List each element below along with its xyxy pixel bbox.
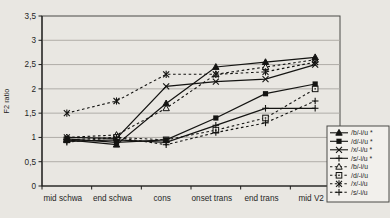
- f2-ratio-figure: 00,511,522,533,5mid schwaend schwaconson…: [0, 0, 390, 218]
- marker-square-filled: [263, 91, 268, 96]
- legend-label: /b/-i/u *: [351, 129, 373, 136]
- marker-dot: [338, 175, 339, 176]
- marker-dot: [314, 88, 315, 89]
- y-tick-label: 2: [31, 85, 36, 94]
- y-tick-label: 1: [31, 133, 36, 142]
- x-category-label-end-trans: end trans: [244, 194, 278, 203]
- f2-ratio-line-chart: 00,511,522,533,5mid schwaend schwaconson…: [0, 0, 390, 218]
- x-category-label-cons: cons: [154, 194, 171, 203]
- y-tick-label: 2,5: [25, 60, 37, 69]
- y-tick-label: 0: [31, 182, 36, 191]
- legend-label: /d/-i/u *: [351, 138, 373, 145]
- legend-entry-x-i-u-solid: /x/-i/u *: [330, 146, 373, 153]
- legend-label: /d/-i/u: [351, 172, 368, 179]
- legend: /b/-i/u */d/-i/u */x/-i/u */s/-i/u */b/-…: [327, 126, 389, 202]
- legend-label: /s/-i/u: [351, 189, 368, 196]
- y-axis-title: F2 ratio: [2, 89, 11, 114]
- y-tick-label: 3,5: [25, 12, 37, 21]
- y-tick-label: 0,5: [25, 158, 37, 167]
- marker-dot: [265, 117, 266, 118]
- x-category-label-onset-trans: onset trans: [192, 194, 233, 203]
- x-category-label-end-schwa: end schwa: [93, 194, 133, 203]
- x-category-label-mid-v2: mid V2: [298, 194, 324, 203]
- x-category-label-mid-schwa: mid schwa: [43, 194, 82, 203]
- y-tick-label: 3: [31, 36, 36, 45]
- y-tick-label: 1,5: [25, 109, 37, 118]
- legend-label: /x/-i/u: [351, 180, 368, 187]
- legend-label: /b/-i/u: [351, 163, 368, 170]
- legend-entry-d-i-u-solid: /d/-i/u *: [330, 138, 373, 145]
- legend-label: /s/-i/u *: [351, 155, 373, 162]
- marker-square-filled: [336, 139, 341, 144]
- marker-square-filled: [313, 81, 318, 86]
- legend-label: /x/-i/u *: [351, 146, 373, 153]
- marker-square-filled: [213, 115, 218, 120]
